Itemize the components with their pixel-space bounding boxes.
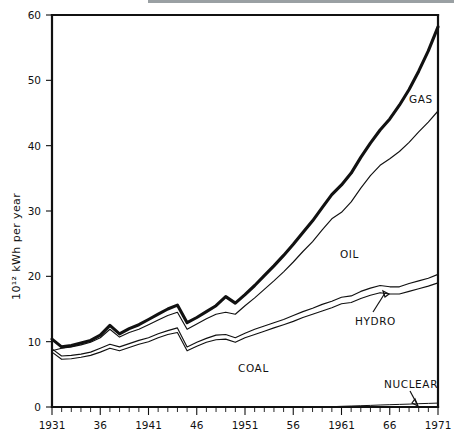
series-label-nuclear: NUCLEAR [384,378,438,390]
x-tick-label: 36 [94,419,108,431]
y-tick-label: 0 [34,401,41,413]
x-tick-label: 1941 [135,419,162,431]
y-tick-label: 40 [28,140,41,152]
x-tick-label: 1961 [328,419,355,431]
x-tick-label: 56 [287,419,301,431]
y-tick-label: 50 [28,74,41,86]
x-tick-marks [52,407,438,415]
y-tick-label: 20 [28,270,41,282]
y-tick-label: 30 [28,205,41,217]
x-tick-labels: 1931361941461951561961661971 [39,419,452,431]
x-tick-label: 1931 [39,419,66,431]
y-axis-title: 10¹² kWh per year [10,193,23,300]
x-tick-label: 1971 [425,419,452,431]
series-label-gas: GAS [409,93,433,105]
y-tick-labels: 0102030405060 [28,9,41,413]
x-tick-label: 66 [383,419,397,431]
x-tick-label: 1951 [232,419,259,431]
chart-canvas: 0102030405060 19313619414619515619616619… [0,0,454,441]
series-label-oil: OIL [340,248,359,260]
y-tick-label: 60 [28,9,41,21]
energy-consumption-chart: 0102030405060 19313619414619515619616619… [0,0,454,441]
series-label-hydro: HYDRO [355,315,396,327]
series-label-coal: COAL [238,362,269,374]
stacked-bands [52,27,438,407]
y-tick-label: 10 [28,336,41,348]
chart-fill [52,27,438,407]
x-tick-label: 46 [190,419,204,431]
